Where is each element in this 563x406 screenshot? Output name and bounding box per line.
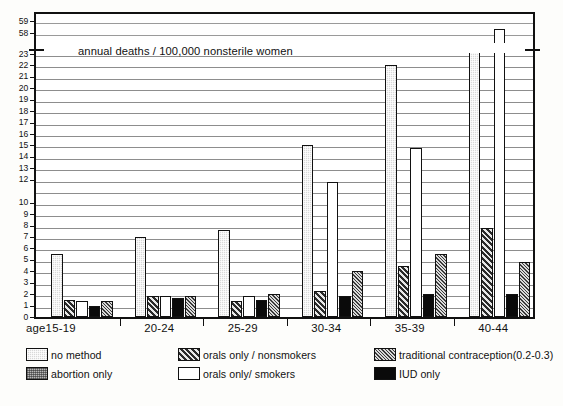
- x-axis-category-label: 20-24: [118, 322, 202, 334]
- y-axis-tick-label: 15: [2, 141, 28, 149]
- gridline: [36, 273, 533, 274]
- gridline: [36, 102, 533, 103]
- gridline: [36, 228, 533, 229]
- legend-item-iud: IUD only: [374, 364, 553, 383]
- bar-iud-20-24: [172, 298, 184, 317]
- y-axis-tick-label: 5: [2, 255, 28, 263]
- legend-swatch-traditional: [374, 348, 396, 361]
- x-axis-category-value: 30-34: [311, 322, 341, 334]
- axis-break-mark-left: [29, 49, 44, 51]
- bar-nonsmokers-25-29: [231, 301, 243, 317]
- bar-nonsmokers-15-19: [64, 300, 76, 317]
- bar-nonsmokers-40-44: [481, 228, 493, 317]
- y-axis-tick-label: 22: [2, 61, 28, 69]
- y-axis-tick-label: 14: [2, 152, 28, 160]
- bar-smokers-15-19: [76, 301, 88, 317]
- y-axis-tick-label: 19: [2, 95, 28, 103]
- x-axis-category-label: age15-19: [26, 322, 110, 334]
- y-axis-tick-label: 10: [2, 198, 28, 206]
- y-axis-tick-label: 3: [2, 278, 28, 286]
- gridline: [36, 125, 533, 126]
- legend-item-nonsmokers: orals only / nonsmokers: [178, 345, 370, 364]
- bar-traditional-25-29: [268, 294, 280, 317]
- y-axis-tick-label: 1: [2, 301, 28, 309]
- x-axis-category-label: 25-29: [201, 322, 285, 334]
- gridline: [36, 182, 533, 183]
- x-axis-category-value: 20-24: [144, 322, 174, 334]
- bar-iud-40-44: [506, 294, 518, 317]
- legend-item-smokers: orals only/ smokers: [178, 364, 370, 383]
- y-axis-tick-label: 21: [2, 72, 28, 80]
- bar-nonsmokers-30-34: [314, 291, 326, 317]
- y-axis-tick-label: 7: [2, 232, 28, 240]
- bar-iud-25-29: [256, 300, 268, 317]
- bar-nomethod-20-24: [135, 237, 147, 317]
- legend-swatch-abortion: [26, 367, 48, 380]
- gridline: [36, 35, 533, 36]
- y-axis-tick-label: 58: [2, 29, 28, 37]
- bar-nomethod-35-39: [385, 65, 397, 317]
- gridline: [36, 262, 533, 263]
- bar-traditional-20-24: [185, 296, 197, 317]
- y-axis-tick-label: 9: [2, 210, 28, 218]
- legend-label: orals only/ smokers: [203, 368, 295, 380]
- legend-swatch-nonsmokers: [178, 348, 200, 361]
- y-axis-tick-label: 13: [2, 164, 28, 172]
- y-axis-tick-label: 8: [2, 221, 28, 229]
- bar-nonsmokers-20-24: [147, 296, 159, 317]
- y-axis-tick-label: 17: [2, 118, 28, 126]
- bar-smokers-20-24: [160, 296, 172, 317]
- gridline: [36, 216, 533, 217]
- y-axis-tick-label: 12: [2, 175, 28, 183]
- bar-iud-30-34: [339, 296, 351, 317]
- x-axis-category-value: 25-29: [228, 322, 258, 334]
- bar-iud-15-19: [89, 306, 101, 317]
- x-axis-category-label: 40-44: [452, 322, 536, 334]
- x-axis-category-value: 35-39: [395, 322, 425, 334]
- legend-label: orals only / nonsmokers: [203, 349, 316, 361]
- gridline: [36, 239, 533, 240]
- bar-nomethod-15-19: [51, 254, 63, 317]
- bar-smokers-30-34: [327, 182, 339, 317]
- legend-label: IUD only: [399, 368, 440, 380]
- y-axis-tick-label: 18: [2, 107, 28, 115]
- gridline: [36, 79, 533, 80]
- figure-bar-chart: 0123456789101213141516171819202122235859…: [0, 0, 563, 406]
- x-axis-category-value: 40-44: [478, 322, 508, 334]
- legend-label: no method: [51, 349, 102, 361]
- legend-swatch-smokers: [178, 367, 200, 380]
- gridline: [36, 296, 533, 297]
- gridline: [36, 193, 533, 194]
- y-axis-tick-label: 16: [2, 130, 28, 138]
- plot-area: [34, 12, 535, 319]
- gridline: [36, 67, 533, 68]
- bar-traditional-30-34: [352, 271, 364, 317]
- legend-label: traditional contraception(0.2-0.3): [399, 349, 553, 361]
- bar-iud-35-39: [423, 294, 435, 317]
- axis-break-mark-right: [525, 49, 540, 51]
- bar-traditional-15-19: [101, 301, 113, 317]
- gridline: [36, 147, 533, 148]
- gridline: [36, 285, 533, 286]
- bar-smokers-40-44-upper-segment: [494, 29, 506, 43]
- legend-item-abortion: abortion only: [26, 364, 174, 383]
- gridline: [36, 205, 533, 206]
- gridline: [36, 136, 533, 137]
- legend-swatch-nomethod: [26, 348, 48, 361]
- x-axis-category-label: 35-39: [368, 322, 452, 334]
- y-axis-tick-label: 4: [2, 267, 28, 275]
- legend-item-nomethod: no method: [26, 345, 174, 364]
- legend-swatch-iud: [374, 367, 396, 380]
- y-axis-tick-label: 0: [2, 313, 28, 321]
- bar-smokers-25-29: [243, 296, 255, 317]
- chart-title: annual deaths / 100,000 nonsterile women: [78, 45, 293, 57]
- bar-traditional-40-44: [519, 262, 531, 317]
- bar-nomethod-40-44: [469, 53, 481, 317]
- legend: no methodorals only / nonsmokerstraditio…: [26, 345, 546, 383]
- gridline: [36, 23, 533, 24]
- bar-smokers-35-39: [410, 148, 422, 317]
- bar-nomethod-30-34: [302, 145, 314, 317]
- gridline: [36, 113, 533, 114]
- x-axis-category-label: 30-34: [285, 322, 369, 334]
- gridline: [36, 250, 533, 251]
